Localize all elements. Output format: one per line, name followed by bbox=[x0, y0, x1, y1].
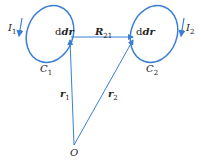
label-dr1: ddr bbox=[55, 26, 74, 37]
current-arrow-i1 bbox=[19, 18, 22, 36]
label-c1: C1 bbox=[40, 63, 52, 77]
label-i1: I1 bbox=[8, 22, 16, 36]
vector-r1 bbox=[70, 40, 74, 145]
label-r2: r2 bbox=[108, 88, 118, 102]
vector-r2 bbox=[74, 40, 133, 145]
label-dr2: ddr bbox=[136, 26, 155, 37]
label-r21: R21 bbox=[95, 26, 112, 40]
label-r1: r1 bbox=[60, 88, 70, 102]
label-origin: O bbox=[70, 147, 78, 158]
diagram-canvas bbox=[0, 0, 201, 166]
current-arrow-i2 bbox=[181, 18, 184, 36]
label-i2: I2 bbox=[186, 22, 194, 36]
label-c2: C2 bbox=[146, 63, 158, 77]
